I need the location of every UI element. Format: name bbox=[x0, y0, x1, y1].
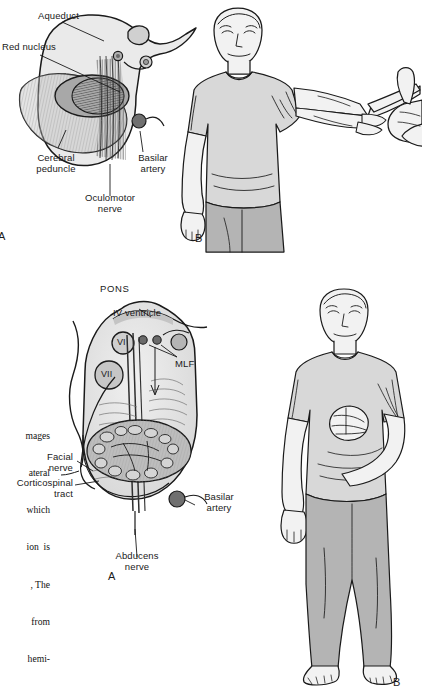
label-cerebral-peduncle: Cerebral peduncle bbox=[18, 152, 94, 174]
left-arm bbox=[282, 418, 308, 514]
pants bbox=[206, 202, 284, 252]
mlf-dot-right bbox=[153, 336, 161, 344]
label-aqueduct: Aqueduct bbox=[38, 10, 79, 21]
lateral-edge bbox=[70, 321, 84, 467]
basilar-artery-dot bbox=[132, 114, 146, 128]
panel-id-bottom-b: B bbox=[393, 676, 400, 688]
caption-line-3: which bbox=[0, 504, 50, 516]
label-mlf: MLF bbox=[175, 358, 194, 369]
label-facial-nerve: Facial nerve bbox=[13, 451, 73, 473]
pons-svg bbox=[55, 285, 275, 585]
panel-id-top-b: B bbox=[195, 232, 202, 244]
label-nucleus-vi: VI bbox=[117, 337, 126, 348]
standing-man-svg bbox=[268, 288, 422, 688]
corticospinal-tract-shape bbox=[87, 420, 191, 482]
pants bbox=[306, 494, 392, 668]
label-red-nucleus: Red nucleus bbox=[2, 41, 56, 52]
caption-column: mages ateral which ion is , The from hem… bbox=[0, 405, 50, 678]
label-pons: PONS bbox=[100, 283, 129, 294]
label-nucleus-vii: VII bbox=[101, 369, 112, 380]
caption-line-1: mages bbox=[0, 430, 50, 442]
pons-section-figure: PONS IV ventricle MLF VI VII Facial nerv… bbox=[55, 285, 275, 585]
caption-line-4: ion is bbox=[0, 541, 50, 553]
right-fist bbox=[330, 406, 369, 440]
label-abducens-nerve: Abducens nerve bbox=[97, 550, 177, 572]
label-iv-ventricle: IV ventricle bbox=[113, 307, 161, 318]
caption-line-5: , The bbox=[0, 579, 50, 591]
pons-basilar-artery-dot bbox=[169, 491, 185, 507]
pons-clinical-figure: B bbox=[268, 288, 422, 688]
lateral-nucleus-circle bbox=[171, 334, 187, 350]
panel-id-top-a: A bbox=[0, 230, 5, 242]
caption-line-6: from bbox=[0, 616, 50, 628]
label-oculomotor-nerve: Oculomotor nerve bbox=[66, 192, 154, 214]
mlf-dot-left bbox=[139, 336, 147, 344]
caption-line-7: hemi- bbox=[0, 653, 50, 665]
label-pons-basilar-artery: Basilar artery bbox=[195, 491, 243, 513]
left-foot bbox=[303, 666, 339, 685]
left-arm bbox=[182, 132, 206, 216]
label-corticospinal-tract: Corticospinal tract bbox=[0, 477, 73, 499]
panel-id-bottom-a: A bbox=[108, 570, 115, 582]
pointing-man-svg bbox=[168, 4, 422, 254]
midbrain-clinical-figure: B bbox=[168, 4, 422, 254]
aqueduct-shape bbox=[128, 26, 149, 45]
